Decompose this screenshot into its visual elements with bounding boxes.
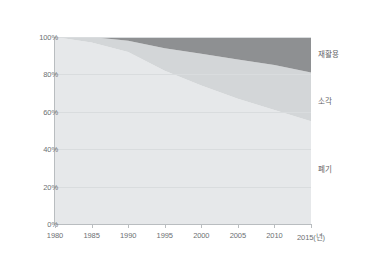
- gridline: [55, 149, 311, 150]
- x-axis-line: [55, 224, 311, 225]
- x-axis-tick-label: 1990: [120, 231, 136, 240]
- y-axis-tick-label: 100%: [39, 33, 58, 42]
- plot-area: [55, 37, 311, 224]
- x-axis-tick-label: 1995: [157, 231, 173, 240]
- y-axis-tick-label: 40%: [43, 145, 58, 154]
- x-axis-tick-mark: [274, 224, 275, 228]
- y-axis-tick-label: 60%: [43, 107, 58, 116]
- y-axis-line: [54, 37, 55, 225]
- gridline: [55, 74, 311, 75]
- x-axis-tick-mark: [128, 224, 129, 228]
- x-axis-tick-label: 2010: [266, 231, 282, 240]
- x-axis-tick-mark: [311, 224, 312, 228]
- gridline: [55, 187, 311, 188]
- x-axis-tick-mark: [92, 224, 93, 228]
- series-label-landfill: 폐기: [318, 163, 332, 174]
- x-axis-tick-mark: [165, 224, 166, 228]
- y-axis-tick-label: 20%: [43, 182, 58, 191]
- stacked-area-series: [55, 37, 311, 224]
- y-axis-tick-label: 80%: [43, 70, 58, 79]
- x-axis-tick-label: 1980: [47, 231, 63, 240]
- series-label-recycle: 재활용: [318, 48, 339, 59]
- x-axis-tick-label: 2015(년): [297, 231, 325, 242]
- gridline: [55, 37, 311, 38]
- x-axis-tick-mark: [201, 224, 202, 228]
- y-axis-tick-label: 0%: [47, 220, 58, 229]
- x-axis-tick-label: 2005: [230, 231, 246, 240]
- x-axis-tick-label: 2000: [193, 231, 209, 240]
- chart-figure: 0%20%40%60%80%100% 198019851990199520002…: [0, 0, 374, 264]
- x-axis-tick-label: 1985: [83, 231, 99, 240]
- gridline: [55, 112, 311, 113]
- series-label-incinerate: 소각: [318, 95, 332, 106]
- x-axis-tick-mark: [238, 224, 239, 228]
- x-axis-tick-mark: [55, 224, 56, 228]
